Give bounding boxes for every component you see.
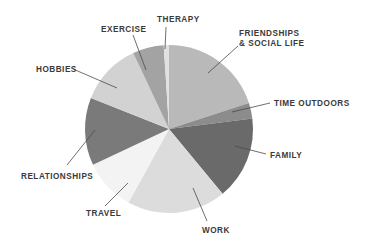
slice-label: THERAPY — [157, 15, 200, 24]
slice-label: FRIENDSHIPS& SOCIAL LIFE — [239, 29, 305, 48]
slice-label: RELATIONSHIPS — [21, 172, 93, 181]
slice-label: TIME OUTDOORS — [274, 99, 350, 108]
slice-label: WORK — [202, 226, 230, 235]
slice-label: FAMILY — [270, 151, 302, 160]
pie-slices — [85, 45, 253, 213]
slice-label: HOBBIES — [36, 65, 77, 74]
pie-chart: FRIENDSHIPS& SOCIAL LIFETIME OUTDOORSFAM… — [0, 0, 366, 247]
slice-label: TRAVEL — [86, 209, 121, 218]
slice-label: EXERCISE — [101, 25, 146, 34]
